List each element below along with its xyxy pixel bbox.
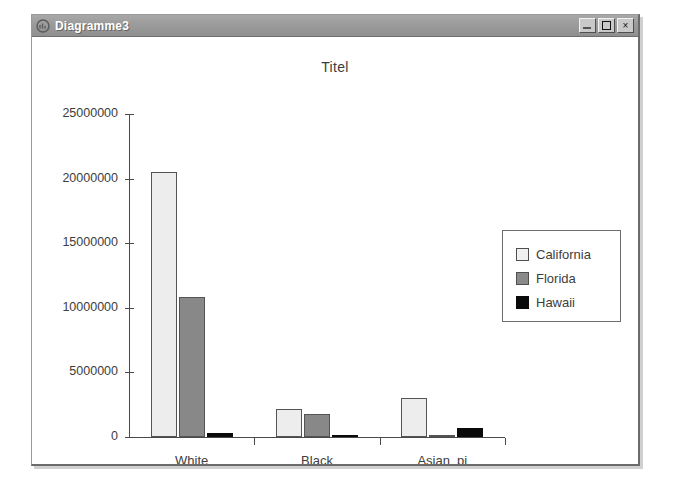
x-axis-tick — [505, 438, 506, 445]
x-axis-category-label: White — [129, 453, 254, 464]
y-axis-tick-label: 0 — [111, 429, 118, 443]
y-axis-tick: 25000000 — [125, 114, 134, 115]
bar — [207, 433, 233, 437]
minimize-button[interactable] — [579, 18, 596, 33]
y-axis-tick: 20000000 — [125, 179, 134, 180]
legend-item: California — [516, 242, 620, 266]
y-axis-tick-label: 10000000 — [62, 300, 118, 314]
chart-title: Titel — [32, 59, 638, 75]
legend-swatch — [516, 296, 529, 309]
y-axis-tick: 10000000 — [125, 308, 134, 309]
chart-window: Diagramme3 × Titel 050000001000000015000… — [31, 14, 640, 466]
maximize-button[interactable] — [598, 18, 615, 33]
window-controls: × — [579, 18, 634, 33]
chart-legend: CaliforniaFloridaHawaii — [502, 230, 621, 322]
plot-area: 0500000010000000150000002000000025000000… — [129, 97, 505, 447]
legend-label: California — [536, 247, 591, 262]
y-axis-tick-label: 15000000 — [62, 235, 118, 249]
legend-swatch — [516, 272, 529, 285]
bar — [304, 414, 330, 437]
window-client-area: Titel 0500000010000000150000002000000025… — [32, 37, 638, 464]
y-axis-tick: 15000000 — [125, 243, 134, 244]
bar — [332, 435, 358, 437]
y-axis-line — [129, 114, 130, 437]
bar — [276, 409, 302, 437]
y-axis-tick-label: 25000000 — [62, 106, 118, 120]
chart-canvas: Titel 0500000010000000150000002000000025… — [32, 37, 638, 464]
x-axis-category-label: Black — [254, 453, 379, 464]
legend-label: Hawaii — [536, 295, 575, 310]
window-title: Diagramme3 — [55, 19, 579, 33]
y-axis-tick: 5000000 — [125, 372, 134, 373]
y-axis-tick-label: 5000000 — [69, 364, 118, 378]
y-axis-tick: 0 — [125, 437, 134, 438]
legend-label: Florida — [536, 271, 576, 286]
bar — [457, 428, 483, 437]
legend-item: Florida — [516, 266, 620, 290]
chart-document-icon — [36, 19, 50, 33]
bar — [429, 435, 455, 437]
legend-swatch — [516, 248, 529, 261]
close-button[interactable]: × — [617, 18, 634, 33]
x-axis-category-label: Asian_pi — [380, 453, 505, 464]
bar — [401, 398, 427, 437]
screenshot-root: Diagramme3 × Titel 050000001000000015000… — [0, 0, 679, 494]
legend-item: Hawaii — [516, 290, 620, 314]
bar — [179, 297, 205, 437]
window-titlebar[interactable]: Diagramme3 × — [32, 15, 638, 37]
x-axis-tick — [380, 438, 381, 445]
bar — [151, 172, 177, 437]
x-axis-tick — [254, 438, 255, 445]
y-axis-tick-label: 20000000 — [62, 171, 118, 185]
x-axis-line — [129, 437, 505, 438]
